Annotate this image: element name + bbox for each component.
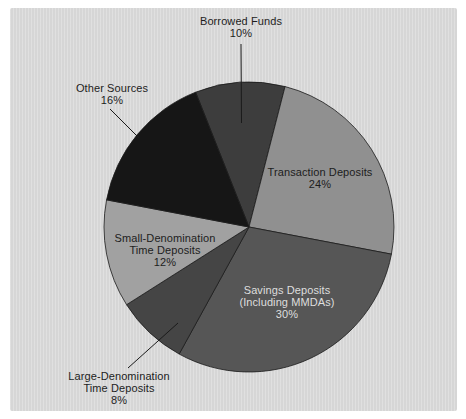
- label-other-sources: Other Sources 16%: [76, 82, 148, 106]
- leader-line-other-sources: [110, 109, 139, 138]
- label-large-denomination-time-deposits: Large-Denomination Time Deposits 8%: [68, 370, 169, 406]
- label-savings-deposits-line1: Savings Deposits: [239, 284, 334, 296]
- figure: Borrowed Funds 10% Other Sources 16% Lar…: [0, 0, 466, 419]
- label-large-denomination-pct: 8%: [68, 394, 169, 406]
- label-transaction-deposits: Transaction Deposits 24%: [268, 166, 373, 190]
- label-large-denomination-line2: Time Deposits: [68, 382, 169, 394]
- label-small-denomination-pct: 12%: [115, 256, 216, 268]
- label-small-denomination-time-deposits: Small-Denomination Time Deposits 12%: [115, 232, 216, 268]
- label-small-denomination-line2: Time Deposits: [115, 244, 216, 256]
- label-large-denomination-line1: Large-Denomination: [68, 370, 169, 382]
- pie-slices: [104, 82, 394, 372]
- label-savings-deposits: Savings Deposits (Including MMDAs) 30%: [239, 284, 334, 320]
- label-borrowed-funds: Borrowed Funds 10%: [200, 15, 282, 39]
- leader-line-borrowed-funds: [241, 44, 242, 123]
- pie-chart: [0, 0, 466, 419]
- label-borrowed-funds-name: Borrowed Funds: [200, 15, 282, 27]
- label-other-sources-pct: 16%: [76, 94, 148, 106]
- label-transaction-deposits-name: Transaction Deposits: [268, 166, 373, 178]
- label-small-denomination-line1: Small-Denomination: [115, 232, 216, 244]
- label-transaction-deposits-pct: 24%: [268, 178, 373, 190]
- label-savings-deposits-pct: 30%: [239, 308, 334, 320]
- label-other-sources-name: Other Sources: [76, 82, 148, 94]
- label-savings-deposits-line2: (Including MMDAs): [239, 296, 334, 308]
- label-borrowed-funds-pct: 10%: [200, 27, 282, 39]
